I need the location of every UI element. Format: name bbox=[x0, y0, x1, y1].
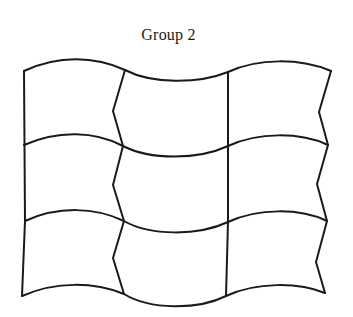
right-edge-zigzag bbox=[316, 71, 331, 293]
row-divider-2 bbox=[25, 210, 327, 232]
vertical-lines bbox=[22, 70, 331, 296]
top-edge-line bbox=[24, 59, 331, 81]
wavy-tile-grid bbox=[0, 0, 353, 317]
row-divider-1 bbox=[24, 134, 328, 156]
column-divider-1-zigzag bbox=[113, 70, 125, 294]
left-edge-line bbox=[22, 71, 25, 296]
column-divider-2-straight bbox=[226, 72, 228, 296]
horizontal-wavy-lines bbox=[22, 59, 331, 306]
bottom-edge-line bbox=[22, 285, 325, 306]
